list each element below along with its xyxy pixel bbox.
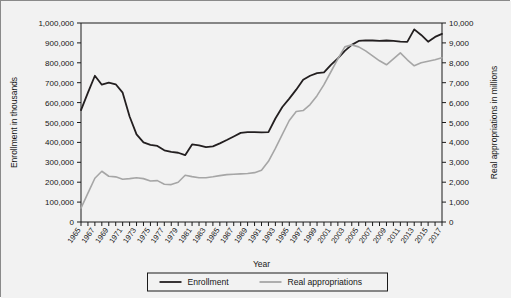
y-axis-left-tick: 100,000: [45, 198, 74, 207]
y-axis-right-tick: 5,000: [449, 119, 470, 128]
line-chart: 0100,000200,000300,000400,000500,000600,…: [1, 1, 511, 298]
y-axis-right-tick: 6,000: [449, 99, 470, 108]
y-axis-right-tick: 8,000: [449, 59, 470, 68]
y-axis-right-tick: 0: [449, 218, 454, 227]
y-axis-right-tick: 2,000: [449, 178, 470, 187]
x-axis-title: Year: [253, 259, 270, 269]
legend-label: Real appropriations: [288, 277, 363, 287]
y-axis-left-tick: 500,000: [45, 119, 74, 128]
y-axis-right-tick: 1,000: [449, 198, 470, 207]
legend-label: Enrollment: [188, 277, 230, 287]
y-axis-right-tick: 7,000: [449, 79, 470, 88]
y-axis-left-tick: 700,000: [45, 79, 74, 88]
y-axis-right-tick: 10,000: [449, 19, 474, 28]
y-axis-left-tick: 600,000: [45, 99, 74, 108]
y-axis-left-title: Enrollment in thousands: [9, 77, 19, 168]
y-axis-right-tick: 3,000: [449, 158, 470, 167]
y-axis-left-tick: 200,000: [45, 178, 74, 187]
y-axis-left-tick: 0: [70, 218, 75, 227]
y-axis-left-tick: 800,000: [45, 59, 74, 68]
y-axis-right-tick: 9,000: [449, 39, 470, 48]
y-axis-left-tick: 900,000: [45, 39, 74, 48]
y-axis-left-tick: 400,000: [45, 138, 74, 147]
y-axis-left-tick: 1,000,000: [38, 19, 74, 28]
chart-legend: EnrollmentReal appropriations: [148, 273, 388, 291]
y-axis-right-title: Real appropriations in millions: [489, 66, 499, 179]
y-axis-right-tick: 4,000: [449, 138, 470, 147]
y-axis-left-tick: 300,000: [45, 158, 74, 167]
plot-area: [81, 23, 442, 222]
